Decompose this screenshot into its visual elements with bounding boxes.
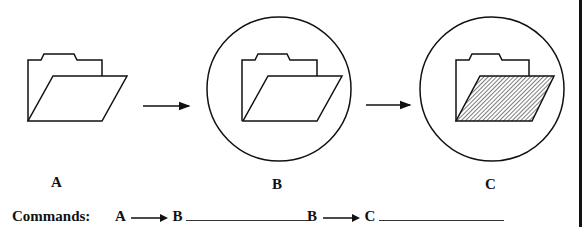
right-border (579, 0, 582, 227)
panel-label-a: A (51, 174, 62, 191)
arrow-right-icon (129, 213, 169, 223)
panel-label-b: B (272, 176, 282, 193)
command-1-to: B (173, 208, 183, 224)
command-1-answer-blank[interactable] (186, 219, 308, 221)
folder-icon-c-hatched (456, 54, 554, 121)
commands-row-2: B C (307, 208, 504, 225)
command-1-from: A (115, 208, 125, 224)
command-2-from: B (307, 208, 317, 224)
commands-title: Commands: (12, 208, 90, 224)
commands-row-1: Commands: A B (12, 208, 308, 225)
command-2-answer-blank[interactable] (379, 219, 504, 221)
folder-icon-b (242, 54, 342, 121)
arrow-right-icon (321, 213, 361, 223)
folder-icon-a (28, 54, 127, 121)
command-2-to: C (365, 208, 376, 224)
panel-label-c: C (485, 176, 496, 193)
